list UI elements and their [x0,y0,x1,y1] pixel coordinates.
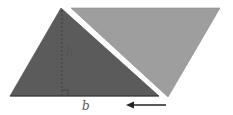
base-label: b [82,99,90,113]
height-label: h [66,45,74,59]
triangle-area-diagram: h b [0,0,233,115]
